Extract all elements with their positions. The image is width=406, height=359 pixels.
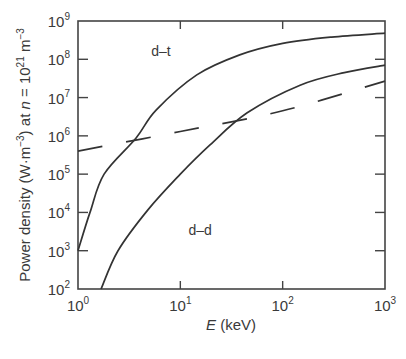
x-tick-label: 101 — [169, 295, 192, 314]
y-tick-label: 109 — [48, 11, 71, 30]
x-tick-label: 103 — [374, 295, 397, 314]
y-tick-label: 105 — [48, 164, 71, 183]
x-tick-label: 102 — [272, 295, 295, 314]
y-tick-label: 106 — [48, 126, 71, 145]
curve-d-d — [101, 65, 385, 289]
x-tick-label: 100 — [67, 295, 90, 314]
y-tick-label: 104 — [48, 202, 71, 221]
curve-label-d-d: d–d — [188, 222, 211, 238]
y-tick-label: 108 — [48, 49, 71, 68]
x-axis-label: E (keV) — [206, 316, 256, 333]
y-axis-label: Power density (W·m−3) at n = 1021 m−3 — [15, 28, 33, 282]
y-tick-label: 103 — [48, 241, 71, 260]
curve-d-t — [78, 33, 385, 251]
curve-label-d-t: d–t — [151, 43, 171, 59]
curves — [78, 33, 385, 289]
plot-frame — [78, 21, 385, 289]
curve-labels: d–td–d — [151, 43, 212, 238]
x-axis-ticks: 100101102103 — [67, 21, 397, 314]
y-tick-label: 102 — [48, 279, 71, 298]
y-axis-ticks: 102103104105106107108109 — [48, 11, 385, 298]
dashed-curve-bremsstrahlung — [78, 81, 385, 151]
power-density-chart: 100101102103 102103104105106107108109 d–… — [0, 0, 406, 359]
y-tick-label: 107 — [48, 88, 71, 107]
